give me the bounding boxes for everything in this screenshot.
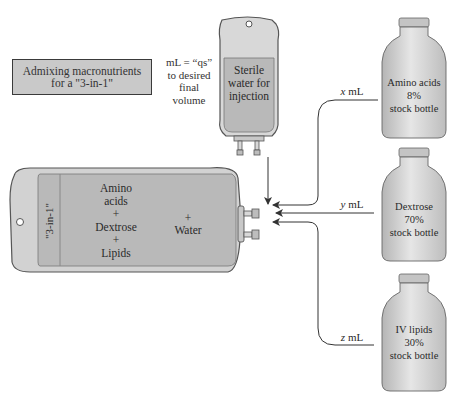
lipids-bottle-concentration: 30%	[404, 337, 424, 348]
dextrose-volume-label: y mL	[340, 198, 364, 210]
amino-volume-label: x mL	[340, 85, 364, 97]
content-plus-1: +	[113, 208, 120, 220]
amino-bottle-concentration: 8%	[407, 90, 421, 101]
sterile-water-line-1: Sterile	[234, 64, 264, 76]
sterile-water-line-3: injection	[229, 90, 269, 103]
content-plus-2: +	[113, 234, 120, 246]
flow-arrows	[268, 100, 378, 345]
hanger-hole-icon	[246, 21, 252, 27]
amino-volume-var: x	[340, 85, 346, 97]
water-label: Water	[174, 224, 201, 236]
dextrose-bottle-type: stock bottle	[390, 227, 439, 238]
lipids-volume-unit: mL	[348, 331, 364, 343]
main-bag-side-label: "3-in-1"	[43, 203, 55, 239]
amino-bottle-name: Amino acids	[387, 77, 440, 88]
dextrose-volume-var: y	[340, 198, 346, 210]
sterile-water-line-2: water for	[228, 77, 270, 89]
lipids-arrow	[273, 222, 374, 345]
lipids-volume-var: z	[340, 331, 346, 343]
sterile-water-bag: Sterile water for injection	[219, 17, 278, 155]
content-dextrose: Dextrose	[95, 221, 137, 233]
diagram-canvas: Sterile water for injection "3-in-1" Ami…	[0, 0, 453, 402]
lipids-bottle-type: stock bottle	[390, 350, 439, 361]
dextrose-volume-unit: mL	[348, 198, 364, 210]
content-lipids: Lipids	[101, 247, 131, 260]
amino-arrow	[273, 100, 378, 205]
content-acids: acids	[104, 195, 128, 207]
water-plus: +	[185, 212, 192, 224]
bottle-amino-acids: Amino acids 8% stock bottle	[382, 18, 446, 138]
amino-volume-unit: mL	[348, 85, 364, 97]
main-3-in-1-bag: "3-in-1" Amino acids + Dextrose + Lipids…	[10, 168, 259, 272]
hanger-hole-icon	[17, 219, 24, 226]
dextrose-bottle-concentration: 70%	[404, 214, 424, 225]
bottle-dextrose: Dextrose 70% stock bottle	[382, 148, 446, 261]
dextrose-bottle-name: Dextrose	[395, 201, 433, 212]
lipids-volume-label: z mL	[340, 331, 364, 343]
lipids-bottle-name: IV lipids	[396, 324, 433, 335]
content-amino: Amino	[100, 182, 132, 194]
amino-bottle-type: stock bottle	[390, 103, 439, 114]
bottle-iv-lipids: IV lipids 30% stock bottle	[382, 274, 446, 391]
